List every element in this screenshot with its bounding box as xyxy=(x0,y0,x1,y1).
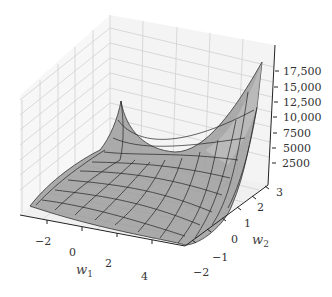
x-tick-label: 0 xyxy=(69,246,76,259)
y-axis-label: w2 xyxy=(252,232,269,249)
z-tick-label: 5000 xyxy=(283,142,311,155)
z-tick-label: 7500 xyxy=(283,127,311,140)
y-tick-label: −1 xyxy=(212,251,228,264)
y-tick-label: 3 xyxy=(276,186,283,199)
z-tick-label: 10,000 xyxy=(283,111,322,124)
y-tick-label: 2 xyxy=(257,201,264,214)
y-tick-label: 0 xyxy=(231,233,238,246)
x-tick-label: 2 xyxy=(105,257,112,270)
x-tick-label: −2 xyxy=(35,235,51,248)
x-axis-label: w1 xyxy=(76,262,93,279)
y-tick-label: 1 xyxy=(244,217,251,230)
z-tick-label: 12,500 xyxy=(283,96,322,109)
y-tick-label: −2 xyxy=(193,266,209,279)
surface-plot: −2 0 2 4 w1 −2 −1 0 1 2 3 w2 2500 5000 7… xyxy=(0,0,332,297)
z-tick-label: 17,500 xyxy=(283,65,322,78)
z-tick-label: 2500 xyxy=(282,157,310,170)
z-tick-label: 15,000 xyxy=(283,81,322,94)
x-tick-label: 4 xyxy=(141,270,148,283)
